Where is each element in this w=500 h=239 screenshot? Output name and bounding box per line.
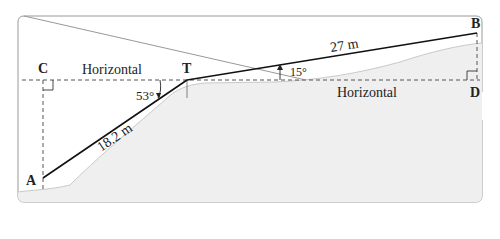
point-B-label: B bbox=[471, 16, 480, 31]
horizontal-right-label: Horizontal bbox=[337, 85, 397, 100]
point-A-label: A bbox=[26, 173, 37, 188]
angle-53-label: 53° bbox=[136, 88, 154, 103]
point-C-label: C bbox=[38, 61, 48, 76]
point-D-label: D bbox=[470, 85, 480, 100]
slope-diagram: C Horizontal T 53° 15° 27 m 18.2 m B Hor… bbox=[0, 0, 500, 239]
point-T-label: T bbox=[182, 61, 192, 76]
right-angle-C bbox=[43, 80, 53, 90]
angle-15-label: 15° bbox=[290, 65, 307, 79]
horizontal-left-label: Horizontal bbox=[82, 62, 142, 77]
